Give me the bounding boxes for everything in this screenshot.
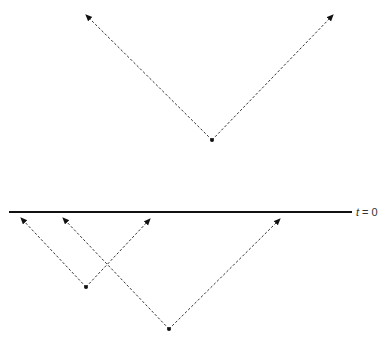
time-zero-label: t = 0 (356, 206, 378, 218)
ray-up-right (212, 15, 333, 140)
ray-up-right (169, 219, 280, 329)
event-lower-right (63, 218, 280, 331)
ray-up-right (86, 219, 150, 287)
event-point (167, 327, 171, 331)
event-point (210, 138, 214, 142)
ray-up-left (63, 218, 169, 329)
event-lower-left (21, 218, 150, 289)
ray-up-left (86, 15, 212, 140)
ray-up-left (21, 218, 86, 287)
event-point (84, 285, 88, 289)
diagram-canvas: t = 0 (0, 0, 391, 353)
event-top (86, 15, 333, 142)
